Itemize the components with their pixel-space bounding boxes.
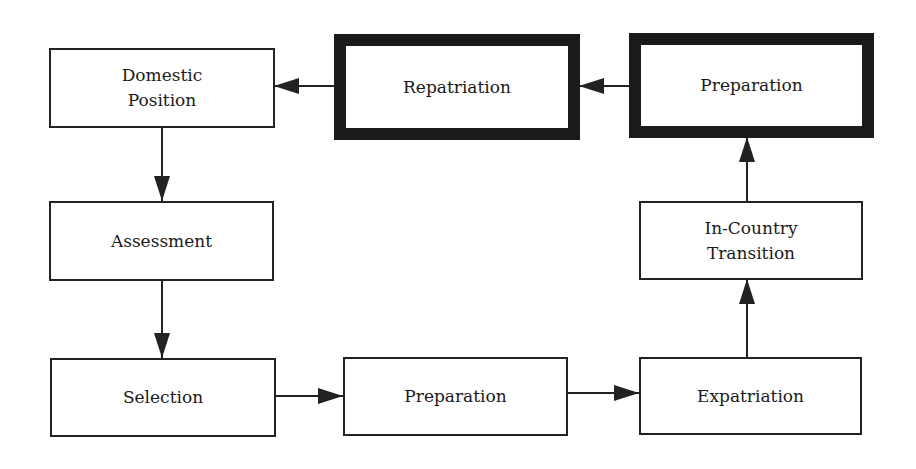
node-repatriation: Repatriation <box>334 34 580 140</box>
node-domestic-position: Domestic Position <box>49 48 275 128</box>
node-expatriation: Expatriation <box>639 357 862 435</box>
node-label: Assessment <box>111 229 212 254</box>
node-label: Preparation <box>700 73 802 98</box>
node-label: Selection <box>123 385 203 410</box>
node-in-country-transition: In-Country Transition <box>639 201 863 280</box>
node-preparation-return: Preparation <box>629 33 874 138</box>
node-label: Repatriation <box>403 75 511 100</box>
node-assessment: Assessment <box>49 201 274 281</box>
node-selection: Selection <box>50 358 276 437</box>
node-label: Domestic Position <box>122 63 203 113</box>
node-label: In-Country Transition <box>704 216 797 266</box>
node-label: Preparation <box>404 384 506 409</box>
node-label: Expatriation <box>697 384 804 409</box>
node-preparation-departure: Preparation <box>343 357 568 436</box>
